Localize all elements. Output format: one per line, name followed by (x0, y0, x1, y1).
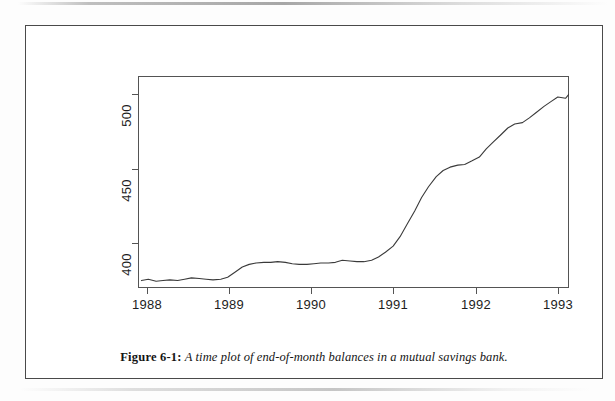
x-tick-mark-1990 (311, 288, 312, 294)
x-tick-mark-1991 (393, 288, 394, 294)
x-tick-label-1990: 1990 (281, 297, 341, 312)
x-tick-label-1993: 1993 (528, 297, 588, 312)
figure-caption-label: Figure 6-1: (120, 350, 181, 364)
scan-edge-artifact-top (18, 2, 608, 5)
x-tick-label-1991: 1991 (363, 297, 423, 312)
y-tick-label-400: 400 (119, 245, 134, 285)
x-tick-label-1988: 1988 (117, 297, 177, 312)
y-tick-label-500: 500 (119, 96, 134, 136)
y-tick-label-450: 450 (119, 171, 134, 211)
time-series-line (138, 76, 569, 288)
x-tick-mark-1989 (229, 288, 230, 294)
plot-area (138, 76, 569, 288)
x-tick-label-1989: 1989 (199, 297, 259, 312)
figure-caption: Figure 6-1: A time plot of end-of-month … (25, 350, 603, 365)
x-tick-mark-1988 (147, 288, 148, 294)
x-tick-label-1992: 1992 (446, 297, 506, 312)
figure-caption-text: A time plot of end-of-month balances in … (185, 350, 508, 364)
scan-edge-artifact-bottom (20, 388, 590, 391)
x-tick-mark-1992 (476, 288, 477, 294)
x-tick-mark-1993 (558, 288, 559, 294)
scanned-page: 500 450 400 1988 1989 1990 1991 1992 199… (0, 0, 615, 401)
figure-frame: 500 450 400 1988 1989 1990 1991 1992 199… (25, 25, 603, 379)
